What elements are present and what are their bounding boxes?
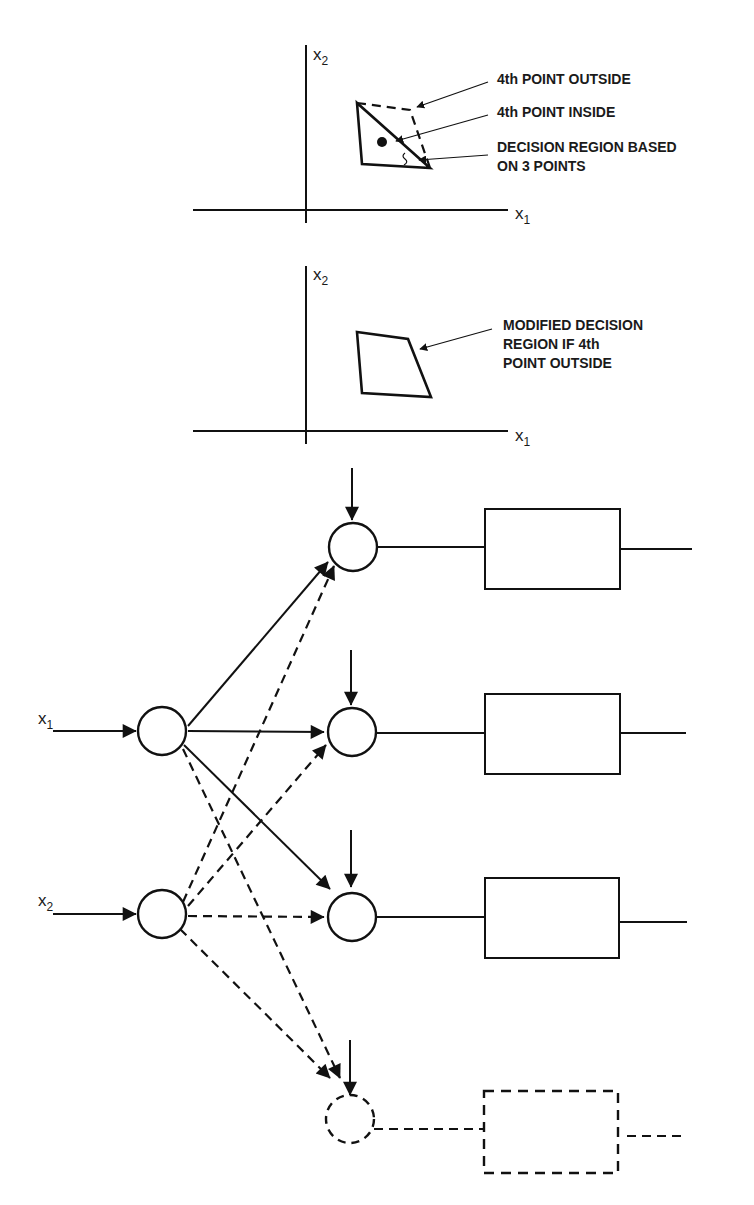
connection-x2-h1 [183,566,334,902]
top-plot: x2 x1 4th POINT OUTSIDE 4th POINT INSIDE… [193,45,677,227]
region-leader-arrow [419,155,488,160]
input-x1-label: x1 [38,709,54,732]
output-box-4-dashed [484,1091,618,1173]
hidden-node-1 [329,523,377,571]
network-diagram: x1 x2 [38,468,692,1173]
label-4th-point-inside: 4th POINT INSIDE [497,104,615,120]
input-node-x2 [138,890,186,938]
x1-axis-label: x1 [515,426,531,449]
connection-x1-h4-dashed [183,749,340,1078]
modified-decision-region [357,332,431,397]
output-box-2 [485,694,620,774]
hidden-node-4-dashed [326,1095,374,1143]
connection-x1-h1 [188,562,328,726]
fourth-point-dot [377,137,387,147]
connection-x2-h3 [188,916,324,917]
label-modified-line2: REGION IF 4th [503,336,599,352]
middle-plot: x2 x1 MODIFIED DECISION REGION IF 4th PO… [193,265,643,449]
modified-leader-arrow [420,329,492,349]
hidden-node-3 [328,893,376,941]
label-decision-region-line2: ON 3 POINTS [497,158,586,174]
output-box-3 [485,878,619,958]
connection-x2-h4 [180,929,330,1078]
x2-axis-label: x2 [313,265,329,288]
inside-leader-arrow [396,115,488,141]
outside-leader-arrow [417,82,488,107]
input-x2-label: x2 [38,891,54,914]
connection-x1-h2 [188,731,324,732]
label-modified-line3: POINT OUTSIDE [503,355,612,371]
squiggle-mark [403,153,407,165]
x1-axis-label: x1 [515,204,531,227]
hidden-node-2 [328,708,376,756]
x2-axis-label: x2 [313,45,329,68]
figure-canvas: x2 x1 4th POINT OUTSIDE 4th POINT INSIDE… [0,0,754,1205]
label-4th-point-outside: 4th POINT OUTSIDE [497,71,631,87]
label-modified-line1: MODIFIED DECISION [503,317,643,333]
input-node-x1 [138,707,186,755]
label-decision-region-line1: DECISION REGION BASED [497,139,677,155]
output-box-1 [485,509,620,589]
